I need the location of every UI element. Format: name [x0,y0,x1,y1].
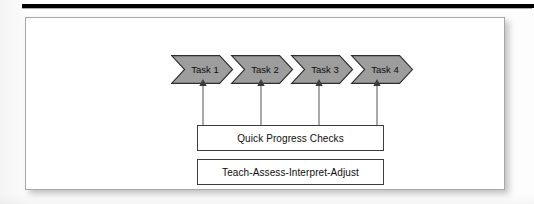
connector-arrow-3 [315,79,322,128]
scanned-page: Task 1 Task 2 Task 3 Task 4 [0,0,534,204]
chevron-label-4: Task 4 [371,64,398,75]
connector-arrow-2 [257,79,264,128]
chevron-label-3: Task 3 [311,64,338,75]
quick-progress-checks-label: Quick Progress Checks [237,133,344,144]
quick-progress-checks-box: Quick Progress Checks [197,125,384,151]
teach-assess-interpret-adjust-label: Teach-Assess-Interpret-Adjust [222,167,359,178]
connector-arrow-4 [373,79,380,128]
connector-arrow-1 [199,79,206,128]
chevron-label-2: Task 2 [251,64,278,75]
top-horizontal-rule-shadow [22,8,532,9]
teach-assess-interpret-adjust-box: Teach-Assess-Interpret-Adjust [197,159,384,185]
figure-frame: Task 1 Task 2 Task 3 Task 4 [25,17,505,190]
connector-arrow-group [171,78,413,128]
chevron-label-1: Task 1 [191,64,218,75]
